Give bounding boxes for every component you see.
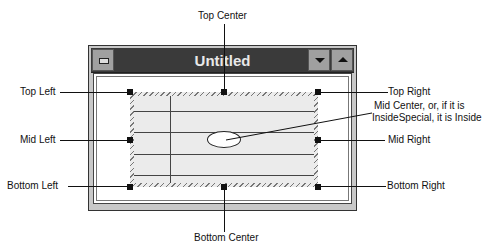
label-mid-right: Mid Right: [388, 134, 430, 145]
label-mid-center-line2: InsideSpecial, it is Inside: [372, 112, 482, 123]
label-bottom-center: Bottom Center: [194, 232, 258, 243]
label-top-right: Top Right: [388, 86, 430, 97]
label-top-left: Top Left: [20, 86, 56, 97]
label-bottom-left: Bottom Left: [7, 180, 58, 191]
label-mid-left: Mid Left: [20, 134, 56, 145]
label-bottom-right: Bottom Right: [387, 180, 445, 191]
leader-mid-center: [0, 0, 484, 251]
label-mid-center-line1: Mid Center, or, if it is: [374, 100, 465, 111]
label-top-center: Top Center: [198, 10, 247, 21]
